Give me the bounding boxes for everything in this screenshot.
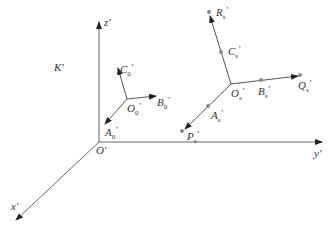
point-p	[180, 129, 184, 133]
a0-label: A0'	[105, 126, 118, 141]
ps-label: Ps'	[187, 130, 199, 145]
qs-label: Qs'	[298, 79, 311, 94]
point-c	[219, 50, 223, 54]
point-b	[259, 78, 263, 82]
a0-vector	[105, 99, 127, 124]
rs-label: Rs'	[216, 6, 228, 21]
frame-label: K'	[54, 62, 64, 73]
y-axis-label: y'	[314, 148, 321, 159]
z-axis-label: z'	[104, 17, 111, 28]
q-vector	[231, 76, 298, 84]
c0-label: C0'	[120, 63, 133, 78]
point-a	[206, 104, 210, 108]
x-axis-label: x'	[11, 201, 18, 212]
cs-label: Cs'	[228, 45, 241, 60]
b0-vector	[127, 96, 156, 99]
o0-label: O0'	[127, 102, 141, 117]
as-label: As'	[211, 109, 223, 124]
point-q	[298, 73, 302, 77]
x-axis	[16, 142, 99, 220]
diagram-canvas	[0, 0, 330, 228]
os-label: Os'	[231, 87, 244, 102]
coordinate-diagram: K' O' z' y' x' C0' O0' B0' A0' Rs' Cs' O…	[0, 0, 330, 228]
bs-label: Bs'	[258, 85, 270, 100]
point-r	[207, 10, 211, 14]
b0-label: B0'	[157, 96, 170, 111]
origin-label: O'	[96, 145, 106, 156]
